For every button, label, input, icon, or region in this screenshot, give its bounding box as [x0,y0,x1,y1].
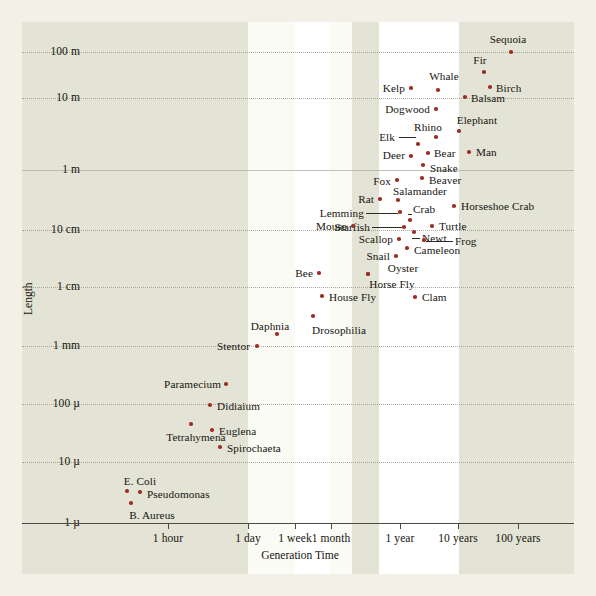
y-tick-label: 10 µ [18,455,80,467]
y-tick-label: 1 mm [18,339,80,351]
point-label: Crab [413,203,435,215]
x-tick [400,524,401,529]
point-label: Euglena [219,425,256,437]
data-point [463,95,467,99]
figure-root: 100 m10 m1 m10 cm1 cm1 mm100 µ10 µ1 µ1 h… [0,0,596,596]
point-label: Snail [367,250,391,262]
data-point [255,344,259,348]
x-tick-label: 1 hour [123,532,213,544]
x-tick [458,524,459,529]
point-label: Drosophilia [312,324,366,336]
data-point [351,224,355,228]
data-point [488,85,492,89]
gridline-y-6 [22,404,574,405]
data-point [320,294,324,298]
y-tick-label: 1 m [18,163,80,175]
x-axis-line [22,523,574,524]
data-point [426,151,430,155]
data-point [467,150,471,154]
data-point [311,314,315,318]
data-point [457,129,461,133]
point-label: Snake [430,162,458,174]
gridline-y-5 [22,346,574,347]
data-point [402,225,406,229]
point-label: Bee [295,267,313,279]
point-label: Elephant [457,114,498,126]
x-tick [168,524,169,529]
data-point [405,246,409,250]
y-tick-label: 100 m [18,45,80,57]
data-point [412,230,416,234]
data-point [138,490,142,494]
point-label: Spirochaeta [227,442,281,454]
data-point [409,154,413,158]
data-point [452,204,456,208]
gridline-y-4 [22,287,574,288]
gridline-y-7 [22,462,574,463]
point-label: Lemming [320,207,364,219]
leader-line [412,238,420,239]
data-point [378,197,382,201]
data-point [408,218,412,222]
data-point [509,50,513,54]
leader-line [372,227,402,228]
point-label: Whale [429,70,459,82]
data-point [218,445,222,449]
data-point [317,271,321,275]
x-axis-title: Generation Time [230,549,370,561]
point-label: Paramecium [164,378,221,390]
gridline-y-0 [22,52,574,53]
y-tick-label: 10 m [18,91,80,103]
point-label: Stentor [217,340,250,352]
data-point [413,295,417,299]
data-point [395,178,399,182]
point-label: Turtle [439,220,467,232]
point-label: Daphnia [251,320,290,332]
x-tick [248,524,249,529]
leader-line [399,137,416,138]
data-point [129,501,133,505]
point-label: E. Coli [124,475,156,487]
point-label: Kelp [383,82,405,94]
data-point [189,422,193,426]
point-label: Scallop [359,233,393,245]
gridline-y-2 [22,170,574,171]
point-label: Clam [422,291,447,303]
data-point [434,107,438,111]
y-tick-label: 10 cm [18,223,80,235]
data-point [208,403,212,407]
y-axis-title: Length [22,282,34,315]
y-tick-label: 100 µ [18,397,80,409]
leader-line [426,241,453,242]
point-label: Dogwood [385,103,430,115]
data-point [434,135,438,139]
data-point [409,86,413,90]
data-point [422,238,426,242]
point-label: Pseudomonas [147,488,210,500]
data-point [275,332,279,336]
y-tick-label: 1 µ [18,516,80,528]
point-label: Cameleon [414,244,460,256]
point-label: Sequoia [490,33,527,45]
point-label: Horse Fly [369,278,414,290]
plot-layer: 100 m10 m1 m10 cm1 cm1 mm100 µ10 µ1 µ1 h… [0,0,596,596]
data-point [420,176,424,180]
leader-line [408,214,412,215]
point-label: House Fly [329,291,376,303]
point-label: Elk [379,131,395,143]
data-point [396,198,400,202]
point-label: Fir [473,54,486,66]
point-label: Oyster [388,262,418,274]
data-point [398,210,402,214]
data-point [430,224,434,228]
point-label: Fox [373,175,391,187]
point-label: Salamander [393,185,447,197]
data-point [125,489,129,493]
data-point [394,254,398,258]
point-label: Rhino [414,121,442,133]
point-label: Didiaium [217,400,260,412]
x-tick [295,524,296,529]
data-point [397,237,401,241]
point-label: Horseshoe Crab [461,200,534,212]
point-label: Balsam [471,92,505,104]
